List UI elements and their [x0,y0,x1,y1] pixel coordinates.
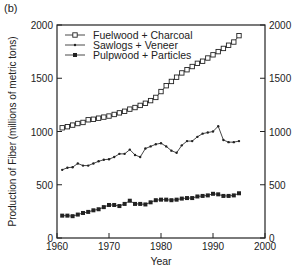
data-point [108,158,110,160]
data-point [76,121,80,125]
data-point [122,109,126,113]
data-point [60,214,64,218]
data-point [159,89,163,93]
data-point [238,140,240,142]
x-tick-label: 1970 [98,241,121,252]
data-point [96,116,100,120]
data-point [181,144,183,146]
data-point [232,40,236,44]
data-point [143,101,147,105]
data-point [117,111,121,115]
data-point [185,196,189,200]
right-y-tick-label: 0 [269,233,275,244]
data-point [128,199,132,203]
data-point [138,103,142,107]
data-point [65,214,69,218]
data-point [65,125,69,129]
data-point [144,147,146,149]
data-point [138,202,142,206]
data-point [190,196,194,200]
y-tick-label: 500 [36,180,53,191]
data-point [174,75,178,79]
data-point [91,117,95,121]
right-y-tick-label: 500 [269,180,286,191]
data-point [221,194,225,198]
data-point [81,120,85,124]
data-point [237,191,241,195]
data-point [107,203,111,207]
data-point [201,194,205,198]
y-tick-label: 2000 [31,20,54,31]
data-point [112,203,116,207]
data-point [117,204,121,208]
data-point [128,107,132,111]
data-point [227,141,229,143]
data-point [97,160,99,162]
data-point [112,112,116,116]
right-y-tick-label: 2000 [269,20,292,31]
data-point [169,79,173,83]
y-axis-label: Production of Fiber (millions of metric … [7,36,18,226]
data-point [195,194,199,198]
data-point [60,126,64,130]
data-point [82,164,84,166]
data-point [164,84,168,88]
data-point [71,214,75,218]
data-point [211,53,215,57]
data-point [169,198,173,202]
data-point [92,162,94,164]
legend-marker [73,33,77,37]
data-point [180,197,184,201]
data-point [170,149,172,151]
y-tick-label: 1000 [31,127,54,138]
data-point [76,213,80,217]
data-point [175,198,179,202]
data-point [87,164,89,166]
data-point [154,95,158,99]
x-tick-label: 1990 [202,241,225,252]
data-point [71,166,73,168]
data-point [191,140,193,142]
data-point [70,123,74,127]
data-point [139,156,141,158]
data-point [86,118,90,122]
data-point [195,61,199,65]
data-point [134,154,136,156]
data-point [102,205,106,209]
data-point [148,98,152,102]
data-point [129,148,131,150]
data-point [216,49,220,53]
data-point [97,207,101,211]
data-point [61,169,63,171]
legend-label: Pulpwood + Particles [93,49,191,61]
x-tick-label: 1980 [150,241,173,252]
data-point [154,198,158,202]
data-point [233,141,235,143]
data-point [201,132,203,134]
data-point [118,153,120,155]
right-y-tick-label: 1000 [269,127,292,138]
data-point [155,143,157,145]
x-axis-label: Year [150,255,172,267]
data-point [190,64,194,68]
data-point [180,71,184,75]
data-point [212,130,214,132]
data-point [102,115,106,119]
data-point [226,43,230,47]
data-point [91,208,95,212]
data-point [206,193,210,197]
data-point [216,192,220,196]
data-point [123,153,125,155]
y-tick-label: 1500 [31,73,54,84]
data-point [206,56,210,60]
data-point [86,210,90,214]
data-point [227,194,231,198]
right-y-tick-label: 1500 [269,73,292,84]
data-point [185,68,189,72]
data-point [149,200,153,204]
series-line-1 [62,126,239,170]
data-point [123,202,127,206]
data-point [200,59,204,63]
line-chart: 1960197019801990200005001000150020000500… [0,0,296,271]
data-point [222,139,224,141]
